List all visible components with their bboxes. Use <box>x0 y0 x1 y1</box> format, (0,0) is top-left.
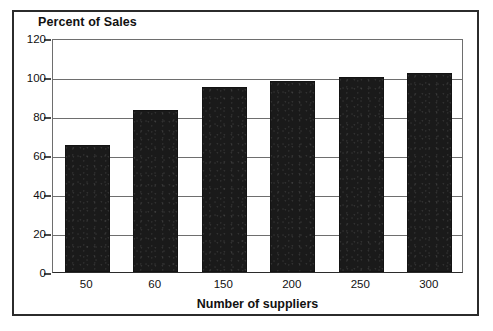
chart-figure: Percent of Sales 020406080100120 5060150… <box>0 0 493 331</box>
x-axis-tick-label: 300 <box>419 278 438 290</box>
x-axis-tick-label: 60 <box>148 278 161 290</box>
bar <box>407 73 452 272</box>
x-axis-tick-label: 200 <box>282 278 301 290</box>
gridline <box>53 196 462 197</box>
bar <box>133 110 178 272</box>
bar <box>202 87 247 272</box>
bar <box>270 81 315 272</box>
y-axis-tick-label: 40 <box>12 189 46 201</box>
bar <box>339 77 384 272</box>
x-axis-labels: 5060150200250300 <box>52 278 463 296</box>
gridline <box>53 79 462 80</box>
x-axis-tick-label: 250 <box>351 278 370 290</box>
chart-title: Percent of Sales <box>38 15 137 29</box>
plot-area <box>52 39 463 273</box>
gridline <box>53 118 462 119</box>
y-axis-tick-label: 20 <box>12 228 46 240</box>
gridline <box>53 157 462 158</box>
y-axis-tick-label: 120 <box>12 33 46 45</box>
y-axis-tick-label: 100 <box>12 72 46 84</box>
y-axis-tick-label: 0 <box>12 267 46 279</box>
x-axis-tick-label: 150 <box>214 278 233 290</box>
y-axis-labels: 020406080100120 <box>8 39 46 273</box>
x-axis-title: Number of suppliers <box>52 297 463 311</box>
bar <box>65 145 110 272</box>
x-axis-tick-label: 50 <box>80 278 93 290</box>
y-axis-tick-label: 80 <box>12 111 46 123</box>
y-axis-tick-label: 60 <box>12 150 46 162</box>
gridline <box>53 235 462 236</box>
